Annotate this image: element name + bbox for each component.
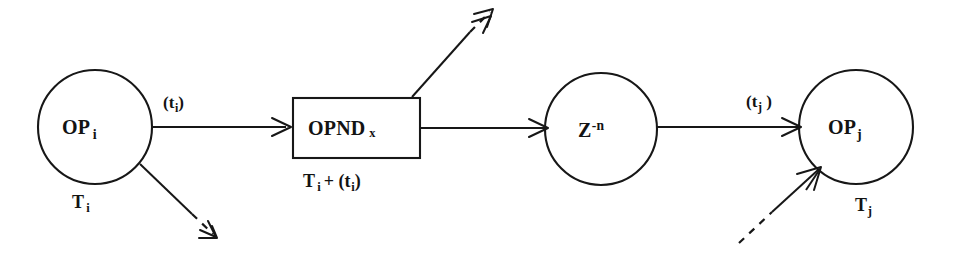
edge-line-opi-external: [140, 164, 192, 214]
time-label-opnd-plus-sub: i: [351, 180, 355, 194]
node-label-z-main: Z: [578, 119, 592, 141]
time-label-opnd-close: ): [355, 171, 361, 191]
edge-label-ti-sub: i: [174, 101, 178, 115]
node-label-op-j-main: OP: [828, 116, 856, 138]
edge-label-ti: (ti): [163, 94, 184, 111]
node-label-op-i-main: OP: [62, 116, 90, 138]
edge-label-ti-open: (t: [163, 93, 174, 112]
time-label-op-i-main: T: [72, 192, 84, 212]
edge-label-tj: (tj ): [746, 93, 772, 110]
edge-label-tj-open: (t: [746, 92, 757, 111]
edge-label-tj-close: ): [762, 92, 772, 111]
edge-label-ti-close: ): [178, 93, 184, 112]
node-label-opnd: OPNDx: [308, 118, 376, 138]
edge-dash-external-opj: [739, 212, 772, 243]
diagram-canvas: OPi Ti (ti) OPNDx Ti+ (ti) Z-n (tj ) OPj…: [0, 0, 955, 256]
diagram-vector-layer: [0, 0, 955, 256]
edge-line-opnd-external: [412, 32, 470, 97]
node-label-opnd-main: OPND: [308, 117, 365, 139]
edge-label-tj-sub: j: [757, 100, 762, 114]
node-label-opnd-sub: x: [365, 126, 375, 140]
time-label-opnd-t: T: [303, 171, 315, 191]
edge-line-external-opj: [772, 170, 818, 212]
node-label-op-j-sub: j: [856, 127, 862, 142]
time-label-opnd: Ti+ (ti): [303, 172, 361, 190]
time-label-opnd-t-sub: i: [315, 180, 321, 194]
time-label-op-j-main: T: [855, 195, 867, 215]
node-label-op-i-sub: i: [90, 127, 97, 142]
node-label-z-exponent: -n: [592, 118, 605, 133]
time-label-opnd-plus: + (t: [321, 171, 351, 191]
node-label-z-delay: Z-n: [578, 120, 604, 140]
node-label-op-j: OPj: [828, 117, 862, 137]
time-label-op-i: Ti: [72, 193, 90, 211]
node-label-op-i: OPi: [62, 117, 97, 137]
time-label-op-j: Tj: [855, 196, 872, 214]
time-label-op-j-sub: j: [867, 204, 872, 218]
time-label-op-i-sub: i: [84, 201, 90, 215]
